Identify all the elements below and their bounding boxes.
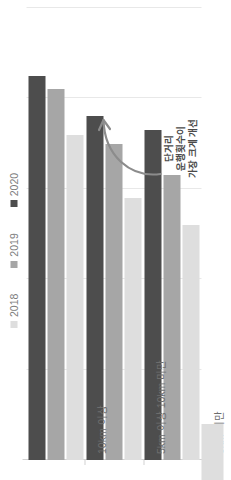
short-distance-annotation: 단거리운행횟수이가장 크게 개선 bbox=[162, 119, 198, 178]
annotation-line-1: 단거리 bbox=[162, 119, 174, 178]
category-label: 10km 이상 bbox=[94, 405, 109, 454]
footer-fragment bbox=[201, 424, 223, 480]
category-label: 5km 이상 10km 미만 bbox=[152, 360, 167, 454]
annotation-line-3: 가장 크게 개선 bbox=[186, 119, 198, 178]
annotation-line-2: 운행횟수이 bbox=[174, 119, 186, 178]
